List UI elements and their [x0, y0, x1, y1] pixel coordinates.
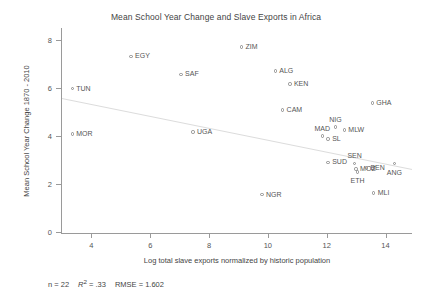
data-point-label: SEN — [347, 152, 361, 159]
r-squared-label: R2 = .33 — [78, 280, 106, 289]
x-axis-title: Log total slave exports normalized by hi… — [62, 256, 412, 265]
x-tick-mark — [91, 233, 92, 238]
x-tick-mark — [327, 233, 328, 238]
data-point-marker — [371, 101, 374, 104]
x-tick-label: 4 — [81, 241, 101, 250]
r-squared-value: = .33 — [89, 280, 106, 289]
x-tick-label: 14 — [376, 241, 396, 250]
data-point-label: KEN — [294, 80, 308, 87]
data-point-marker — [326, 161, 329, 164]
y-tick-mark — [56, 184, 61, 185]
chart-title: Mean School Year Change and Slave Export… — [0, 12, 432, 22]
x-tick-mark — [150, 233, 151, 238]
data-point-label: TUN — [76, 85, 90, 92]
data-point-label: UGA — [197, 128, 212, 135]
y-tick-mark — [56, 136, 61, 137]
data-point-label: SUD — [332, 158, 347, 165]
y-tick-label: 8 — [36, 36, 52, 45]
y-tick-mark — [56, 232, 61, 233]
data-point-label: NGR — [266, 191, 282, 198]
y-axis-title: Mean School Year Change 1870 - 2010 — [22, 30, 31, 232]
y-tick-label: 6 — [36, 84, 52, 93]
data-point-marker — [281, 108, 284, 111]
y-tick-label: 4 — [36, 132, 52, 141]
data-point-label: ZIM — [245, 43, 257, 50]
data-point-label: MAD — [315, 125, 331, 132]
x-tick-mark — [386, 233, 387, 238]
data-point-label: MLI — [378, 189, 390, 196]
data-point-marker — [343, 128, 346, 131]
x-tick-mark — [268, 233, 269, 238]
x-tick-label: 6 — [140, 241, 160, 250]
data-point-marker — [274, 69, 277, 72]
data-point-marker — [334, 125, 337, 128]
rmse-label: RMSE = 1.602 — [115, 280, 164, 289]
y-tick-mark — [56, 40, 61, 41]
data-point-marker — [365, 166, 368, 169]
x-tick-label: 12 — [317, 241, 337, 250]
scatter-plot-figure: Mean School Year Change and Slave Export… — [0, 0, 432, 300]
data-point-label: MLW — [348, 126, 364, 133]
data-point-label: BEN — [370, 164, 384, 171]
data-point-marker — [191, 130, 194, 133]
data-point-marker — [321, 134, 324, 137]
data-point-label: ETH — [351, 177, 365, 184]
data-point-marker — [240, 45, 243, 48]
y-tick-label: 2 — [36, 180, 52, 189]
data-point-label: ALG — [279, 67, 293, 74]
data-point-label: NIG — [329, 116, 341, 123]
data-point-label: ANG — [387, 169, 402, 176]
statistics-footnote: n = 22R2 = .33RMSE = 1.602 — [48, 277, 173, 289]
x-tick-label: 10 — [258, 241, 278, 250]
y-tick-label: 0 — [36, 228, 52, 237]
data-point-label: EGY — [135, 52, 150, 59]
plot-area: TUNMOREGYSAFUGAZIMNGRALGKENCAMMADSLNIGML… — [62, 30, 412, 232]
data-point-marker — [71, 132, 74, 135]
r-squared-exponent: 2 — [83, 277, 86, 284]
data-point-label: SL — [332, 135, 341, 142]
data-point-marker — [356, 170, 359, 173]
data-point-marker — [179, 73, 182, 76]
data-point-label: CAM — [287, 106, 303, 113]
x-axis-line — [61, 233, 412, 234]
data-point-marker — [288, 82, 291, 85]
sample-size-label: n = 22 — [48, 280, 69, 289]
x-tick-label: 8 — [199, 241, 219, 250]
data-point-marker — [129, 55, 132, 58]
x-tick-mark — [209, 233, 210, 238]
data-point-label: MOR — [76, 130, 92, 137]
y-tick-mark — [56, 88, 61, 89]
data-point-label: SAF — [185, 70, 199, 77]
data-point-label: GHA — [376, 99, 391, 106]
data-point-marker — [326, 137, 329, 140]
